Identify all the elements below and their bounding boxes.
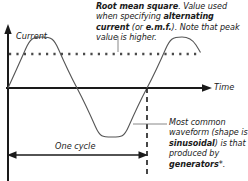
x-axis: [6, 84, 212, 92]
annotation-rms: Root mean square. Value used when specif…: [96, 1, 248, 43]
annotation-waveform-term-1: sinusoidal: [169, 138, 215, 148]
figure-canvas: Current Time One cycle Root mean square.…: [0, 0, 248, 181]
y-axis-label: Current: [16, 31, 47, 41]
annotation-rms-term: Root mean square: [96, 1, 178, 11]
annotation-rms-term-3: e.m.f.: [146, 22, 172, 32]
annotation-waveform-text-1: Most common waveform (shape is: [169, 117, 248, 137]
y-axis: [4, 24, 11, 181]
one-cycle-arrow: [7, 151, 148, 158]
annotation-waveform: Most common waveform (shape is sinusoida…: [169, 117, 248, 169]
one-cycle-label: One cycle: [55, 141, 95, 151]
x-axis-label: Time: [214, 82, 234, 92]
annotation-rms-text-2: (or: [129, 22, 145, 32]
annotation-waveform-term-2: generators: [169, 159, 219, 169]
annotation-waveform-text-3: *.: [219, 159, 226, 169]
